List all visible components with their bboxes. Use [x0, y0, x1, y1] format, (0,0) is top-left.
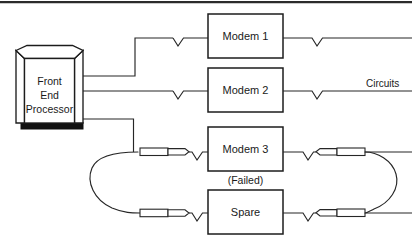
fep-right-face	[75, 51, 84, 124]
patch-plug-icon-modem3-left	[140, 148, 189, 156]
front-end-processor: Front End Processor	[16, 46, 83, 130]
diagram-canvas: Front End Processor Modem 1 Modem 2	[0, 0, 412, 238]
modem2-label: Modem 2	[223, 84, 269, 96]
plug-tip-modem3-left	[168, 149, 189, 155]
spare-node: Spare	[208, 190, 283, 234]
modem2-node: Modem 2	[208, 68, 283, 112]
modem3-status-label: (Failed)	[228, 174, 264, 186]
v-connector-icon-modem1-in	[173, 38, 208, 46]
wire-modem1-to-circuit	[283, 38, 412, 46]
wire-fep-to-patchpanel	[83, 119, 134, 152]
modem1-node: Modem 1	[208, 14, 283, 58]
wire-fep-to-modem1	[83, 38, 173, 76]
fep-label-line1: Front	[37, 75, 62, 87]
modem3-label: Modem 3	[223, 143, 269, 155]
wire-patch-to-modem3-in	[189, 152, 208, 160]
fep-label-line2: End	[40, 89, 59, 101]
modem3-node: Modem 3	[208, 127, 283, 171]
plug-barrel-spare-left	[140, 209, 168, 217]
wire-modem3-out	[283, 152, 316, 160]
network-diagram: Front End Processor Modem 1 Modem 2	[0, 0, 412, 238]
modem1-label: Modem 1	[223, 30, 269, 42]
plug-tip-modem3-right	[316, 149, 337, 155]
patch-plug-icon-spare-left	[140, 209, 189, 217]
patch-cord-icon-left	[90, 152, 140, 213]
fep-left-face	[16, 51, 25, 124]
wire-patch-to-spare-in	[189, 213, 208, 221]
patch-plug-icon-spare-right	[316, 209, 365, 217]
fep-top-bevel	[16, 46, 83, 59]
patch-plug-icon-modem3-right	[316, 148, 365, 156]
spare-label: Spare	[231, 206, 260, 218]
plug-barrel-spare-right	[337, 209, 365, 217]
circuits-label: Circuits	[366, 78, 399, 89]
wire-spare-out	[283, 213, 316, 221]
v-connector-icon-modem2-in	[173, 91, 208, 99]
plug-tip-spare-left	[168, 210, 189, 216]
fep-label-line3: Processor	[26, 103, 74, 115]
plug-tip-spare-right	[316, 210, 337, 216]
patch-cord-icon-right	[365, 152, 397, 213]
plug-barrel-modem3-right	[337, 148, 365, 156]
plug-barrel-modem3-left	[140, 148, 168, 156]
wire-modem2-to-circuit	[283, 91, 412, 99]
